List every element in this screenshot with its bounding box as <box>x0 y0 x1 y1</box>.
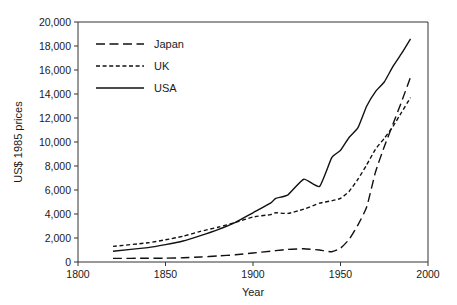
y-tick-label: 4,000 <box>45 208 71 220</box>
x-axis-ticks <box>78 262 428 266</box>
x-tick-label: 1900 <box>241 268 265 280</box>
y-tick-label: 16,000 <box>39 64 71 76</box>
y-axis-ticks <box>74 22 78 262</box>
y-tick-label: 20,000 <box>39 16 71 28</box>
series-line-uk <box>113 98 411 247</box>
y-axis-title: US$ 1985 prices <box>12 101 24 183</box>
x-tick-label: 1950 <box>329 268 353 280</box>
series-line-japan <box>113 77 411 258</box>
legend-label-usa: USA <box>154 82 177 94</box>
y-axis-tick-labels: 02,0004,0006,0008,00010,00012,00014,0001… <box>39 16 71 268</box>
legend-label-uk: UK <box>154 60 170 72</box>
chart-canvas: 02,0004,0006,0008,00010,00012,00014,0001… <box>0 0 457 305</box>
y-tick-label: 2,000 <box>45 232 71 244</box>
gdp-per-capita-line-chart: 02,0004,0006,0008,00010,00012,00014,0001… <box>0 0 457 305</box>
y-tick-label: 10,000 <box>39 136 71 148</box>
x-tick-label: 1800 <box>66 268 90 280</box>
legend-label-japan: Japan <box>154 38 184 50</box>
y-tick-label: 18,000 <box>39 40 71 52</box>
y-tick-label: 8,000 <box>45 160 71 172</box>
y-tick-label: 14,000 <box>39 88 71 100</box>
y-tick-label: 12,000 <box>39 112 71 124</box>
x-axis-tick-labels: 18001850190019502000 <box>66 268 440 280</box>
chart-legend: JapanUKUSA <box>96 38 184 94</box>
y-tick-label: 0 <box>65 256 71 268</box>
x-tick-label: 1850 <box>154 268 178 280</box>
x-tick-label: 2000 <box>416 268 440 280</box>
y-tick-label: 6,000 <box>45 184 71 196</box>
x-axis-title: Year <box>242 286 265 298</box>
plot-frame <box>78 22 428 262</box>
